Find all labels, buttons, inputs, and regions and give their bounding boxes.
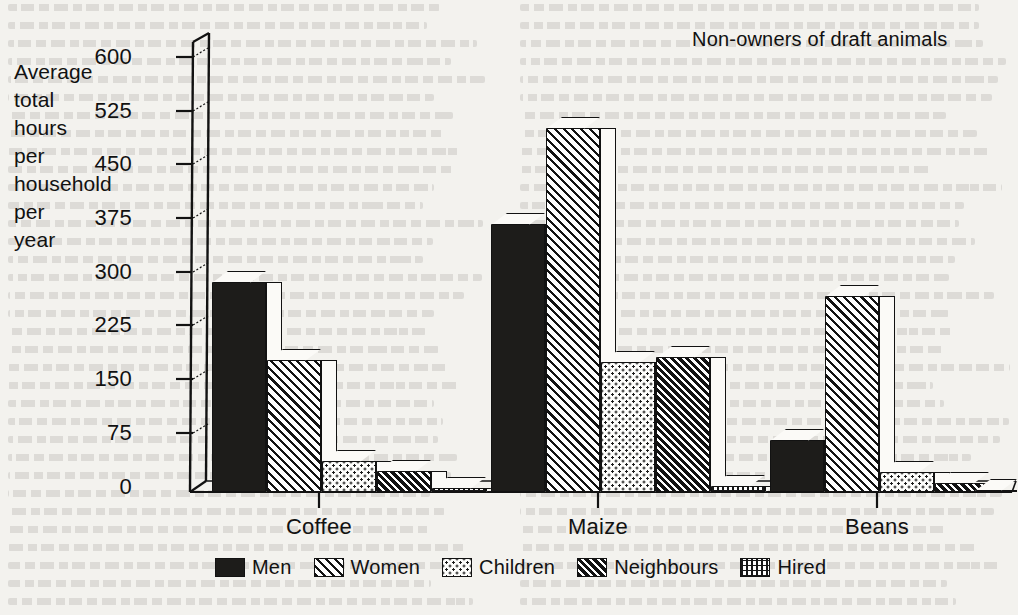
bar-face — [656, 357, 710, 492]
bar-coffee-children — [322, 461, 376, 492]
bar-face — [322, 461, 376, 492]
legend-item-neighbours: Neighbours — [577, 556, 718, 579]
bar-side-face — [710, 357, 726, 492]
bar-face — [377, 471, 431, 492]
bar-face — [212, 282, 266, 492]
bar-chart: Average total hours per household per ye… — [0, 0, 1018, 615]
legend-item-children: Children — [442, 556, 555, 579]
x-tick-label-coffee: Coffee — [259, 514, 379, 540]
bar-face — [601, 362, 655, 492]
bar-beans-women — [825, 296, 879, 492]
bar-face — [770, 440, 824, 492]
bar-maize-men — [491, 224, 545, 492]
bar-face — [825, 296, 879, 492]
legend-item-women: Women — [314, 556, 421, 579]
x-tick-label-maize: Maize — [538, 514, 658, 540]
legend-item-men: Men — [215, 556, 292, 579]
legend-label: Neighbours — [614, 556, 718, 579]
legend-label: Women — [351, 556, 421, 579]
bar-side-face — [879, 296, 895, 492]
legend-swatch-neighbours — [577, 558, 607, 577]
bar-face — [491, 224, 545, 492]
legend-swatch-men — [215, 558, 245, 577]
chart-legend: Men Women Children Neighbours Hired — [215, 556, 826, 579]
legend-label: Hired — [777, 556, 826, 579]
legend-label: Children — [479, 556, 555, 579]
bar-beans-men — [770, 440, 824, 492]
bar-face — [880, 472, 934, 492]
legend-swatch-hired — [740, 558, 770, 577]
legend-item-hired: Hired — [740, 556, 826, 579]
legend-swatch-children — [442, 558, 472, 577]
bar-face — [546, 128, 600, 492]
bar-maize-neighbours — [656, 357, 710, 492]
x-tick-label-beans: Beans — [817, 514, 937, 540]
bar-beans-hired — [975, 490, 1017, 492]
bar-coffee-men — [212, 282, 266, 492]
bar-maize-children — [601, 362, 655, 492]
bar-beans-children — [880, 472, 934, 492]
bar-maize-women — [546, 128, 600, 492]
bar-coffee-women — [267, 360, 321, 492]
bar-coffee-neighbours — [377, 471, 431, 492]
bar-face — [267, 360, 321, 492]
bar-coffee-hired — [432, 488, 486, 492]
legend-swatch-women — [314, 558, 344, 577]
legend-label: Men — [252, 556, 292, 579]
bar-maize-hired — [711, 486, 765, 492]
